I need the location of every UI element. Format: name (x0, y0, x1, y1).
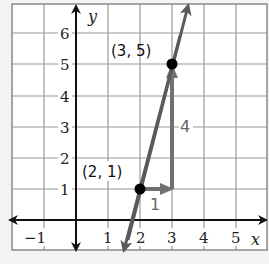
y-tick-2: 2 (60, 150, 70, 168)
x-tick-neg1: −1 (24, 229, 46, 247)
x-tick-5: 5 (231, 229, 241, 247)
y-tick-6: 6 (60, 25, 70, 43)
y-axis-label: y (87, 7, 98, 26)
run-label: 1 (150, 195, 160, 214)
y-tick-1: 1 (60, 181, 70, 199)
point-label-2-1: (2, 1) (82, 163, 122, 181)
point-2-1 (135, 184, 146, 195)
point-label-3-5: (3, 5) (111, 42, 151, 60)
coordinate-plane: y x 6 5 4 3 2 1 −1 1 2 3 4 5 1 4 (2, 1) … (0, 0, 269, 264)
x-axis-label: x (251, 230, 260, 249)
x-tick-4: 4 (199, 229, 209, 247)
point-3-5 (167, 59, 178, 70)
y-tick-5: 5 (60, 56, 70, 74)
rise-label: 4 (180, 117, 190, 136)
x-tick-3: 3 (167, 229, 177, 247)
x-tick-1: 1 (103, 229, 113, 247)
x-tick-2: 2 (136, 229, 146, 247)
y-tick-4: 4 (60, 88, 70, 106)
y-tick-3: 3 (60, 119, 70, 137)
